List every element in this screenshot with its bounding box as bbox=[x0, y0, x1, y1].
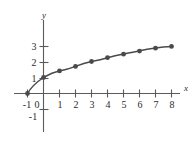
x-tick-label-4: 4 bbox=[106, 99, 111, 110]
y-tick-label-2: 2 bbox=[32, 57, 37, 68]
x-tick-label-8: 8 bbox=[170, 99, 175, 110]
x-tick-label-5: 5 bbox=[122, 99, 127, 110]
data-point bbox=[153, 46, 158, 51]
x-tick-label-1: 1 bbox=[58, 99, 63, 110]
x-axis-label: x bbox=[183, 83, 188, 93]
x-tick-label-7: 7 bbox=[154, 99, 159, 110]
y-tick-label-1: 1 bbox=[32, 73, 37, 84]
data-point-markers bbox=[25, 44, 174, 96]
y-axis-label: y bbox=[41, 10, 46, 20]
x-tick-label-2: 2 bbox=[74, 99, 79, 110]
data-point bbox=[89, 59, 94, 64]
data-point bbox=[57, 69, 62, 74]
function-curve bbox=[28, 46, 172, 93]
x-tick-label--1: -1 bbox=[23, 99, 31, 110]
x-tick-label-6: 6 bbox=[138, 99, 143, 110]
origin-label: 0 bbox=[35, 99, 40, 110]
data-point bbox=[73, 64, 78, 69]
y-tick-label--1: -1 bbox=[29, 111, 37, 122]
data-point bbox=[137, 49, 142, 54]
x-tick-label-3: 3 bbox=[90, 99, 95, 110]
data-point bbox=[25, 91, 30, 96]
graph-figure: -1 1 2 3 4 5 6 7 8 0 3 2 1 -1 y x bbox=[0, 0, 196, 159]
y-tick-label-3: 3 bbox=[32, 41, 37, 52]
data-point bbox=[105, 55, 110, 60]
coordinate-plane-plot: -1 1 2 3 4 5 6 7 8 0 3 2 1 -1 y x bbox=[0, 0, 196, 159]
data-point bbox=[41, 75, 46, 80]
data-point bbox=[121, 52, 126, 57]
data-point bbox=[169, 44, 174, 49]
